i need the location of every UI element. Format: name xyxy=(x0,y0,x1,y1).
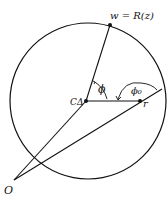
w-label: w = R(z) xyxy=(110,10,154,21)
r-label: r xyxy=(143,98,149,109)
r-point xyxy=(138,99,142,103)
center-point xyxy=(84,99,88,103)
w-point xyxy=(108,23,112,27)
phi-arrowhead xyxy=(93,81,95,84)
origin-label: O xyxy=(4,184,13,197)
center-label: CΔ xyxy=(70,97,83,107)
geometry-diagram: w = R(z) CΔ r O ϕ ϕ₀ xyxy=(0,0,168,197)
origin-to-center-line xyxy=(14,101,86,180)
phi0-label: ϕ₀ xyxy=(131,85,142,96)
phi-label: ϕ xyxy=(98,83,106,96)
